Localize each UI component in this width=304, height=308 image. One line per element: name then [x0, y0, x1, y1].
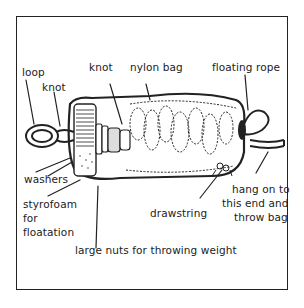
washers-and-nuts [96, 124, 130, 154]
label-hang-3: throw bag [234, 211, 288, 223]
label-styrofoam-1: styrofoam [23, 198, 77, 210]
bag-opening [238, 120, 246, 140]
label-drawstring: drawstring [150, 207, 207, 219]
label-styrofoam-2: for [23, 212, 38, 224]
label-styrofoam-3: floatation [23, 226, 74, 238]
label-washers: washers [24, 173, 68, 185]
label-hang-2: this end and [222, 197, 289, 209]
label-hang-1: hang on to [232, 183, 290, 195]
styrofoam-block [74, 104, 96, 176]
throw-bag-illustration [0, 0, 304, 308]
coiled-rope [126, 101, 236, 172]
label-loop: loop [22, 66, 45, 78]
label-nylon-bag: nylon bag [130, 61, 183, 73]
label-large-nuts: large nuts for throwing weight [75, 244, 237, 256]
label-knot-center: knot [89, 61, 113, 73]
loop-rope [26, 125, 74, 147]
label-floating-rope: floating rope [212, 61, 280, 73]
label-knot-left: knot [42, 81, 66, 93]
floating-rope-end [244, 111, 284, 149]
